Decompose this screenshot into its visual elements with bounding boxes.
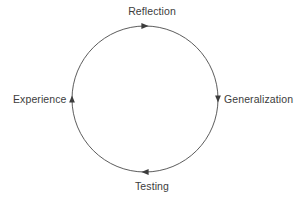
arrow-down-icon [215, 95, 221, 102]
arrow-left-icon [141, 169, 148, 175]
diagram-canvas: Reflection Generalization Testing Experi… [0, 0, 304, 205]
arrow-right-icon [141, 23, 148, 29]
node-label-generalization: Generalization [224, 93, 293, 106]
node-label-testing: Testing [0, 180, 304, 193]
node-label-reflection: Reflection [0, 5, 304, 18]
cycle-circle [72, 26, 218, 172]
node-label-experience: Experience [0, 93, 75, 106]
